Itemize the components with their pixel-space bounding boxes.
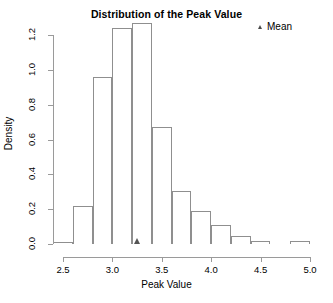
x-axis-label: Peak Value [0,279,333,290]
x-axis-tick-label: 2.5 [48,264,78,275]
y-axis-tick-label: 0.0 [26,231,37,257]
x-axis-tick [261,257,262,262]
plot-panel: 0.00.20.40.60.81.01.22.53.03.54.04.55.0 [0,0,333,303]
x-axis-line [63,257,310,258]
y-axis-tick [48,244,53,245]
y-axis-tick-label: 1.0 [26,56,37,82]
y-axis-tick-label: 0.2 [26,196,37,222]
x-axis-tick-label: 5.0 [295,264,325,275]
x-axis-tick-label: 3.0 [97,264,127,275]
histogram-bar [172,191,192,244]
y-axis-line [53,35,54,244]
mean-marker-icon [134,238,140,244]
y-axis-tick [48,105,53,106]
histogram-bar [191,211,211,244]
histogram-bar [132,23,152,244]
y-axis-tick [48,209,53,210]
x-axis-tick-label: 4.0 [196,264,226,275]
x-axis-tick [162,257,163,262]
y-axis-tick-label: 0.8 [26,91,37,117]
y-axis-tick [48,35,53,36]
y-axis-tick-label: 0.6 [26,126,37,152]
x-axis-tick [63,257,64,262]
histogram-bar [211,225,231,244]
histogram-bar [251,241,271,244]
histogram-plot: Distribution of the Peak Value Mean 0.00… [0,0,333,303]
histogram-bar [290,241,310,244]
y-axis-tick [48,174,53,175]
histogram-bar [152,127,172,244]
x-axis-tick [310,257,311,262]
y-axis-label: Density [3,104,14,164]
x-axis-tick [211,257,212,262]
x-axis-tick [112,257,113,262]
histogram-bar [93,77,113,244]
histogram-bar [112,28,132,244]
histogram-bar [73,206,93,244]
y-axis-tick-label: 1.2 [26,22,37,48]
y-axis-tick [48,140,53,141]
y-axis-tick [48,70,53,71]
histogram-bar [231,236,251,244]
y-axis-tick-label: 0.4 [26,161,37,187]
histogram-bar [53,242,73,244]
x-axis-tick-label: 3.5 [147,264,177,275]
x-axis-tick-label: 4.5 [246,264,276,275]
